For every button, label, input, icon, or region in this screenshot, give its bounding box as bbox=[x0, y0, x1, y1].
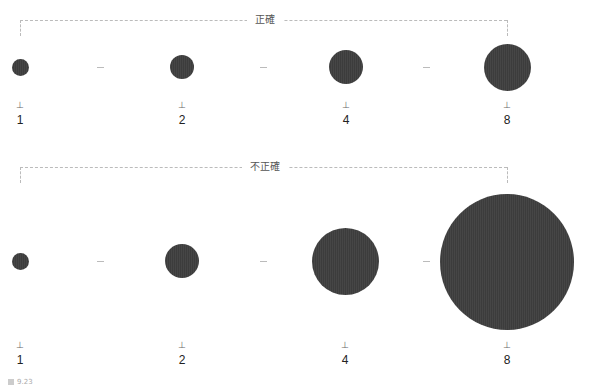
bottom-tick-icon-2: ⊥ bbox=[178, 340, 186, 350]
bottom-circle-1 bbox=[12, 253, 29, 270]
top-label-8: 8 bbox=[504, 113, 511, 127]
top-heading: 正確 bbox=[247, 14, 283, 26]
bottom-heading: 不正確 bbox=[242, 161, 288, 173]
top-label-2: 2 bbox=[179, 113, 186, 127]
top-label-1: 1 bbox=[17, 113, 24, 127]
top-circle-8 bbox=[484, 44, 531, 91]
bottom-tick-icon-4: ⊥ bbox=[341, 340, 349, 350]
top-circle-2 bbox=[170, 55, 194, 79]
bottom-separator-1 bbox=[97, 261, 104, 262]
top-circle-4 bbox=[329, 50, 363, 84]
top-circle-1 bbox=[12, 59, 29, 76]
top-bracket-left-drop bbox=[20, 20, 21, 36]
figure-number: 9.23 bbox=[17, 378, 33, 386]
top-separator-2 bbox=[260, 67, 267, 68]
bottom-label-2: 2 bbox=[179, 353, 186, 367]
bottom-label-4: 4 bbox=[342, 353, 349, 367]
figure-icon bbox=[8, 379, 14, 385]
bottom-circle-2 bbox=[165, 244, 199, 278]
bottom-circle-4 bbox=[312, 228, 379, 295]
top-tick-icon-4: ⊥ bbox=[342, 100, 350, 110]
top-separator-1 bbox=[97, 67, 104, 68]
bottom-bracket-left-drop bbox=[20, 167, 21, 183]
top-tick-icon-8: ⊥ bbox=[503, 100, 511, 110]
top-label-4: 4 bbox=[343, 113, 350, 127]
bottom-bracket-right-drop bbox=[507, 167, 508, 183]
top-separator-3 bbox=[423, 67, 430, 68]
figure-caption: 9.23 bbox=[8, 378, 33, 386]
bottom-circle-8 bbox=[440, 194, 574, 330]
bottom-label-1: 1 bbox=[17, 353, 24, 367]
bottom-tick-icon-1: ⊥ bbox=[16, 340, 24, 350]
top-tick-icon-1: ⊥ bbox=[16, 100, 24, 110]
bottom-label-8: 8 bbox=[504, 353, 511, 367]
bottom-separator-2 bbox=[260, 261, 267, 262]
bottom-separator-3 bbox=[423, 261, 430, 262]
top-tick-icon-2: ⊥ bbox=[178, 100, 186, 110]
top-bracket-right-drop bbox=[507, 20, 508, 36]
bottom-tick-icon-8: ⊥ bbox=[503, 340, 511, 350]
